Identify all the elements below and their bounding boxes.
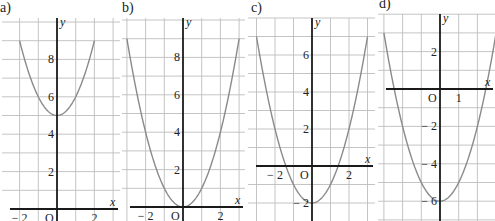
y-tick-label: − 2: [421, 119, 437, 133]
grid: [2, 18, 120, 221]
panel-a: a) xyO− 222468: [0, 0, 120, 221]
x-tick-label: 2: [217, 209, 223, 221]
y-tick-label: − 6: [421, 194, 437, 208]
x-tick-label: − 2: [12, 211, 28, 221]
y-tick-label: 6: [48, 90, 54, 104]
y-tick-label: 6: [174, 88, 180, 102]
y-axis-label: y: [59, 15, 66, 29]
panel-label: d): [379, 0, 391, 12]
y-tick-label: 4: [303, 85, 309, 99]
y-tick-label: − 2: [293, 196, 309, 210]
y-axis-label: y: [185, 15, 192, 29]
origin-label: O: [45, 211, 54, 221]
panel-b: b) xyO− 222468: [122, 0, 245, 221]
y-tick-label: 2: [174, 163, 180, 177]
x-axis-label: x: [364, 152, 371, 166]
parabola-figure: a) xyO− 222468 b) xyO− 222468 c) xyO− 22…: [0, 0, 495, 221]
x-tick-label: − 2: [138, 209, 154, 221]
x-axis-label: x: [234, 193, 241, 207]
origin-label: O: [171, 209, 180, 221]
x-tick-label: 2: [346, 168, 352, 182]
y-tick-label: 2: [48, 165, 54, 179]
x-axis-label: x: [484, 75, 491, 89]
panel-label: c): [251, 0, 262, 16]
y-tick-label: 6: [303, 48, 309, 62]
y-tick-label: 4: [48, 127, 54, 141]
origin-label: O: [428, 91, 437, 105]
panel-c: c) xyO− 22− 2246: [248, 0, 375, 221]
y-tick-label: 2: [431, 45, 437, 59]
y-tick-label: 8: [48, 52, 54, 66]
y-tick-label: − 4: [421, 157, 437, 171]
x-tick-label: − 2: [267, 168, 283, 182]
y-tick-label: 2: [303, 122, 309, 136]
panel-label: b): [122, 0, 134, 16]
x-axis-label: x: [109, 195, 116, 209]
y-axis-label: y: [314, 15, 321, 29]
x-tick-label: 1: [456, 91, 462, 105]
x-tick-label: 2: [91, 211, 97, 221]
y-axis-label: y: [442, 11, 449, 25]
y-tick-label: 8: [174, 50, 180, 64]
panel-d: d) xyO1− 6− 4− 22: [378, 0, 495, 221]
origin-label: O: [300, 168, 309, 182]
panel-label: a): [0, 0, 11, 16]
y-tick-label: 4: [174, 125, 180, 139]
